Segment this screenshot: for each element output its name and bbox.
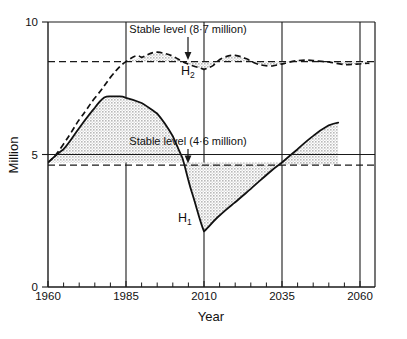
y-axis-title: Million — [6, 137, 21, 174]
series-label-h1-subscript: 1 — [187, 217, 192, 227]
stable-level-low-label: Stable level (4·6 million) — [129, 135, 246, 147]
x-tick-label-2010: 2010 — [191, 290, 217, 302]
y-tick-label-10: 10 — [25, 16, 38, 28]
x-tick-label-1985: 1985 — [113, 290, 139, 302]
series-label-h2-subscript: 2 — [190, 70, 195, 80]
series-label-h1-text: H — [178, 211, 187, 225]
x-axis-title: Year — [198, 309, 225, 324]
figure-container: 10 5 0 1960 1985 2010 2035 2060 Million … — [0, 0, 407, 339]
y-tick-label-5: 5 — [32, 149, 38, 161]
series-label-h2-text: H — [181, 64, 190, 78]
stable-level-high-label: Stable level (8·7 million) — [129, 23, 246, 35]
y-axis-tick-labels: 10 5 0 — [25, 16, 38, 293]
x-tick-label-2035: 2035 — [269, 290, 295, 302]
x-axis-tick-labels: 1960 1985 2010 2035 2060 — [35, 290, 373, 302]
x-tick-label-1960: 1960 — [35, 290, 61, 302]
population-projection-chart: 10 5 0 1960 1985 2010 2035 2060 Million … — [0, 0, 407, 339]
x-tick-label-2060: 2060 — [347, 290, 373, 302]
